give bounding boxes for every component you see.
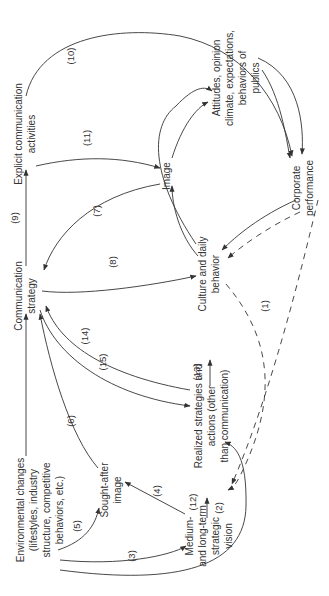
edge-label-13: (13) (191, 364, 202, 381)
svg-text:strategy: strategy (26, 278, 37, 314)
node-environmental-changes: Environmental changes (lifestyles, indus… (15, 458, 65, 563)
svg-text:structure, competitive: structure, competitive (41, 462, 52, 557)
svg-text:Medium-: Medium- (184, 517, 195, 556)
edge-label-6: (6) (65, 415, 76, 427)
edge-label-1: (1) (259, 300, 270, 312)
edge-label-14: (14) (79, 328, 90, 345)
svg-text:Sought-after: Sought-after (99, 462, 110, 518)
edge-label-3: (3) (126, 550, 137, 562)
edge-attitudes-to-performance-1 (262, 70, 290, 158)
svg-text:publics: publics (250, 62, 261, 93)
node-corporate-performance: Corporate performance (291, 159, 315, 216)
edge-culture-to-image (172, 186, 198, 256)
edge-label-10: (10) (65, 48, 76, 65)
edge-label-8: (8) (107, 256, 118, 268)
node-strategic-vision: Medium- and long-term strategic vision (184, 505, 234, 567)
svg-text:than communication): than communication) (219, 370, 230, 463)
edge-3 (60, 546, 186, 562)
svg-text:actions (other: actions (other (206, 385, 217, 446)
svg-text:image: image (112, 476, 123, 504)
edge-attitudes-to-performance-2 (258, 58, 302, 154)
edge-8 (42, 276, 196, 292)
node-communication-strategy: Communication strategy (13, 261, 37, 330)
svg-text:behavior: behavior (210, 254, 221, 293)
edge-image-to-attitudes (172, 102, 208, 158)
svg-text:activities: activities (26, 115, 37, 153)
svg-text:behaviors, etc.): behaviors, etc.) (54, 476, 65, 544)
edge-performance-to-culture-solid (222, 200, 296, 250)
svg-text:behaviors of: behaviors of (237, 51, 248, 106)
edge-label-12: (12) (187, 494, 198, 511)
edge-11 (36, 159, 160, 168)
edge-label-2: (2) (213, 502, 224, 514)
edge-7 (44, 184, 160, 270)
svg-text:and long-term: and long-term (197, 505, 208, 567)
svg-text:Communication: Communication (13, 261, 24, 330)
edge-label-15: (15) (97, 354, 108, 371)
svg-text:(lifestyles, industry: (lifestyles, industry (28, 469, 39, 551)
node-explicit-communication-activities: Explicit communication activities (13, 83, 37, 185)
edge-label-11: (11) (81, 130, 92, 146)
node-culture-daily-behavior: Culture and daily behavior (197, 236, 221, 311)
svg-text:Explicit communication: Explicit communication (13, 83, 24, 185)
edge-14 (40, 310, 190, 406)
edge-label-9: (9) (9, 212, 20, 224)
svg-text:Environmental changes: Environmental changes (15, 458, 26, 563)
edge-15 (46, 306, 190, 390)
edge-culture-to-vision-dashed (226, 284, 265, 490)
diagram-canvas: Environmental changes (lifestyles, indus… (0, 0, 329, 596)
svg-text:Culture and daily: Culture and daily (197, 236, 208, 311)
svg-text:Corporate: Corporate (291, 165, 302, 210)
edge-label-7: (7) (91, 205, 102, 217)
edge-label-4: (4) (151, 485, 162, 497)
svg-text:strategic: strategic (210, 517, 221, 555)
svg-text:climate, expectations,: climate, expectations, (224, 30, 235, 126)
edge-1 (232, 200, 318, 484)
node-sought-after-image: Sought-after image (99, 462, 123, 518)
svg-text:performance: performance (304, 159, 315, 216)
edge-label-5: (5) (71, 520, 82, 532)
